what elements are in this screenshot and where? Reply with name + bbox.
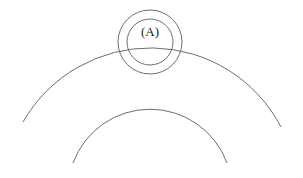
- outer-ring: [118, 10, 182, 74]
- large-arc: [23, 48, 281, 127]
- small-arc: [73, 109, 227, 163]
- diagram-canvas: (A): [0, 0, 303, 178]
- label-a: (A): [141, 24, 159, 39]
- diagram-svg: (A): [0, 0, 303, 178]
